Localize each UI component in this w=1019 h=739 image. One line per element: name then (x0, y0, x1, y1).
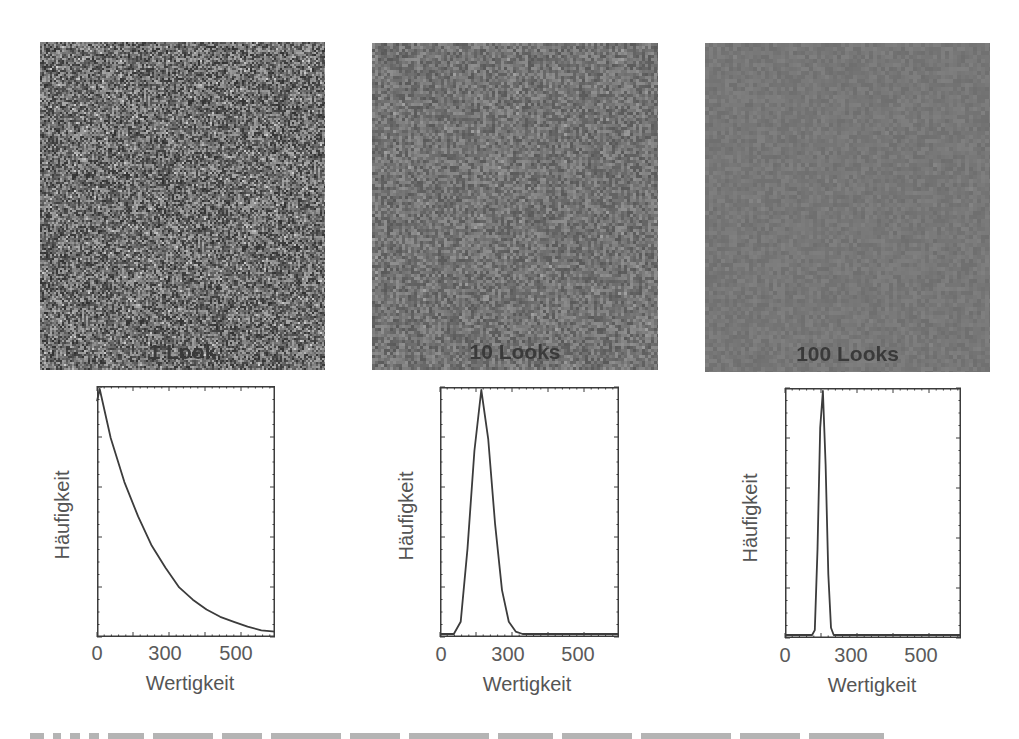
x-tick-label: 0 (91, 642, 102, 665)
image-label: 100 Looks (705, 342, 990, 366)
caption-strip-cut-off (30, 733, 990, 739)
speckle-noise-texture (40, 42, 325, 370)
x-tick-label: 0 (435, 643, 446, 666)
histogram-plot-look1 (97, 386, 275, 637)
speckle-image-look100: 100 Looks (705, 43, 990, 372)
plot-frame (441, 388, 619, 637)
y-axis-label: Häufigkeit (50, 445, 74, 585)
x-tick-label: 500 (904, 644, 937, 667)
histogram-plot-look100 (785, 388, 961, 638)
plot-area (440, 387, 619, 637)
plot-frame (786, 389, 961, 638)
x-axis-label: Wertigkeit (146, 672, 235, 695)
y-axis-label: Häufigkeit (738, 448, 762, 588)
x-tick-label: 0 (779, 644, 790, 667)
speckle-image-look10: 10 Looks (372, 43, 658, 370)
plot-area (97, 386, 275, 637)
image-label: 10 Looks (372, 340, 658, 364)
histogram-plot-look10 (440, 387, 619, 637)
x-tick-label: 500 (561, 643, 594, 666)
x-tick-label: 500 (219, 642, 252, 665)
y-axis-label: Häufigkeit (394, 446, 418, 586)
plot-area (785, 388, 961, 638)
speckle-image-look1: 1 Look (40, 42, 325, 370)
image-label: 1 Look (40, 340, 325, 364)
x-tick-label: 300 (148, 642, 181, 665)
speckle-noise-texture (705, 43, 990, 372)
x-tick-label: 300 (834, 644, 867, 667)
x-axis-label: Wertigkeit (483, 673, 572, 696)
speckle-noise-texture (372, 43, 658, 370)
x-tick-label: 300 (491, 643, 524, 666)
x-axis-label: Wertigkeit (828, 674, 917, 697)
plot-frame (98, 387, 275, 637)
